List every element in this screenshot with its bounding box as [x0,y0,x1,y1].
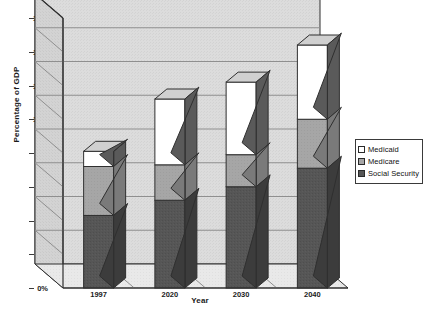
dark-gray-swatch [358,170,365,177]
chart-legend: Medicaid Medicare Social Security [355,139,423,184]
legend-item-label: Social Security [368,169,419,178]
legend-item-label: Medicare [368,157,400,166]
legend-item-label: Medicaid [368,145,399,154]
bar-group [226,72,268,288]
legend-item: Social Security [358,168,419,179]
gray-swatch [358,158,365,165]
left-wall [35,0,63,288]
bar-group [297,35,339,288]
legend-item: Medicare [358,156,419,167]
white-swatch [358,146,365,153]
legend-item: Medicaid [358,144,419,155]
